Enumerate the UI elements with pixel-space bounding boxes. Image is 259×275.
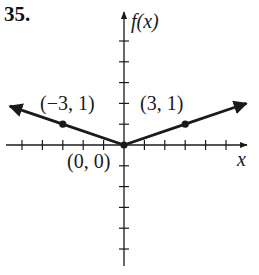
figure: 35. f(x) x (−3, 1) (3, 1) (0, 0) xyxy=(0,0,259,275)
problem-number: 35. xyxy=(4,2,30,27)
x-axis-label: x xyxy=(236,148,246,170)
point-label-right: (3, 1) xyxy=(140,92,183,115)
graph: f(x) x (−3, 1) (3, 1) (0, 0) xyxy=(0,0,259,275)
left-arrow-icon xyxy=(10,106,18,109)
right-arrow-icon xyxy=(237,103,246,106)
y-axis-label: f(x) xyxy=(131,10,159,33)
data-point xyxy=(59,121,66,128)
data-point xyxy=(120,141,127,148)
point-label-origin: (0, 0) xyxy=(67,150,110,173)
data-point xyxy=(182,121,189,128)
point-label-left: (−3, 1) xyxy=(40,92,95,115)
